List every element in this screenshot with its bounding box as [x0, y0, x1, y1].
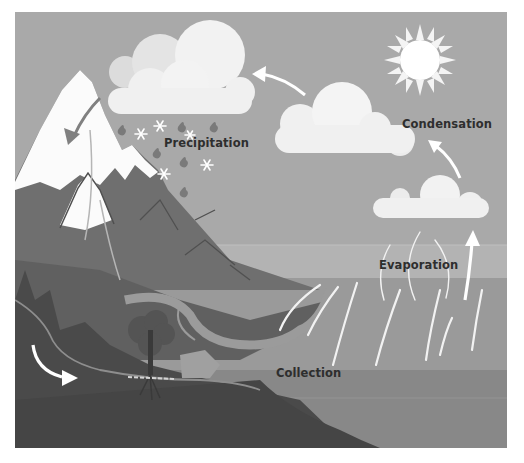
label-condensation: Condensation — [402, 117, 492, 131]
label-precipitation: Precipitation — [164, 136, 249, 150]
label-evaporation: Evaporation — [379, 258, 458, 272]
water-cycle-diagram: Precipitation Condensation Evaporation C… — [0, 0, 524, 463]
water-cycle-illustration — [0, 0, 524, 463]
label-collection: Collection — [276, 366, 341, 380]
